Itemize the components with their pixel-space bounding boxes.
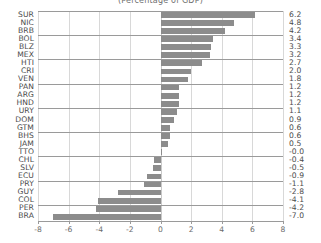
x-tick-label: 2 — [189, 225, 194, 234]
bar-row: BRB4.2 — [38, 27, 283, 35]
bar — [161, 109, 178, 115]
bar-row: NIC4.8 — [38, 19, 283, 27]
row-separator — [38, 35, 283, 36]
bar-chart: (Percentage of GDP) SUR6.2NIC4.8BRB4.2BO… — [0, 0, 321, 243]
row-separator — [38, 156, 283, 157]
bar-row: BRA-7.0 — [38, 213, 283, 221]
bar — [161, 85, 179, 91]
bar-row: HTI2.7 — [38, 59, 283, 67]
bar-row: GTM0.6 — [38, 124, 283, 132]
bar — [161, 52, 210, 58]
x-tick — [222, 221, 223, 224]
bar — [161, 125, 170, 131]
bar — [161, 60, 202, 66]
bar — [161, 141, 169, 147]
x-tick — [252, 221, 253, 224]
bar — [147, 174, 161, 180]
bar — [96, 206, 160, 212]
bar — [53, 214, 160, 220]
bar-row: SUR6.2 — [38, 11, 283, 19]
bar-row: BLZ3.3 — [38, 43, 283, 51]
x-tick — [69, 221, 70, 224]
row-separator — [38, 132, 283, 133]
bar-row: HND1.2 — [38, 100, 283, 108]
x-tick-label: 8 — [281, 225, 286, 234]
x-axis: -8-6-4-202468 — [38, 221, 283, 241]
plot-area: SUR6.2NIC4.8BRB4.2BOL3.4BLZ3.3MEX3.2HTI2… — [38, 11, 283, 221]
bar — [161, 69, 192, 75]
bar — [161, 77, 189, 83]
x-tick-label: -6 — [65, 225, 73, 234]
x-tick-label: -4 — [95, 225, 103, 234]
x-gridline — [283, 11, 284, 221]
bar-row: ECU-0.9 — [38, 173, 283, 181]
chart-title: (Percentage of GDP) — [0, 0, 321, 6]
bar-row: URY1.1 — [38, 108, 283, 116]
x-tick — [161, 221, 162, 224]
bar-row: BOL3.4 — [38, 35, 283, 43]
bar-row: MEX3.2 — [38, 51, 283, 59]
bar — [161, 36, 213, 42]
bar — [161, 28, 225, 34]
bar-row: CRI2.0 — [38, 68, 283, 76]
bar — [161, 101, 179, 107]
bar — [161, 133, 170, 139]
bar — [161, 12, 256, 18]
bar — [161, 93, 179, 99]
row-separator — [38, 108, 283, 109]
bar-row: COL-4.1 — [38, 197, 283, 205]
bar-row: PAN1.2 — [38, 84, 283, 92]
bar-row: PER-4.2 — [38, 205, 283, 213]
bar — [161, 149, 162, 155]
x-tick-label: 0 — [158, 225, 163, 234]
x-tick — [283, 221, 284, 224]
x-tick — [130, 221, 131, 224]
x-tick — [99, 221, 100, 224]
x-tick — [191, 221, 192, 224]
x-tick-label: -8 — [34, 225, 42, 234]
value-label: -7.0 — [289, 212, 304, 220]
bar-row: JAM0.5 — [38, 140, 283, 148]
x-tick — [38, 221, 39, 224]
x-tick-label: 6 — [250, 225, 255, 234]
row-separator — [38, 84, 283, 85]
bar — [161, 117, 175, 123]
row-separator — [38, 181, 283, 182]
bar — [153, 165, 161, 171]
bar — [161, 20, 235, 26]
bar-row: GUY-2.8 — [38, 189, 283, 197]
x-tick-label: -2 — [126, 225, 134, 234]
bar-row: PRY-1.1 — [38, 181, 283, 189]
bar — [144, 182, 161, 188]
bar — [154, 157, 160, 163]
bar — [118, 190, 161, 196]
x-tick-label: 4 — [219, 225, 224, 234]
bar-row: TTO-0.0 — [38, 148, 283, 156]
bar-row: SLV-0.5 — [38, 164, 283, 172]
row-separator — [38, 59, 283, 60]
bar — [98, 198, 161, 204]
bar-row: ARG1.2 — [38, 92, 283, 100]
bar-row: VEN1.8 — [38, 76, 283, 84]
bar-row: BHS0.6 — [38, 132, 283, 140]
category-label: BRA — [18, 212, 34, 220]
bar — [161, 44, 212, 50]
row-separator — [38, 205, 283, 206]
row-separator — [38, 11, 283, 12]
bar-row: DOM0.9 — [38, 116, 283, 124]
bar-row: CHL-0.4 — [38, 156, 283, 164]
